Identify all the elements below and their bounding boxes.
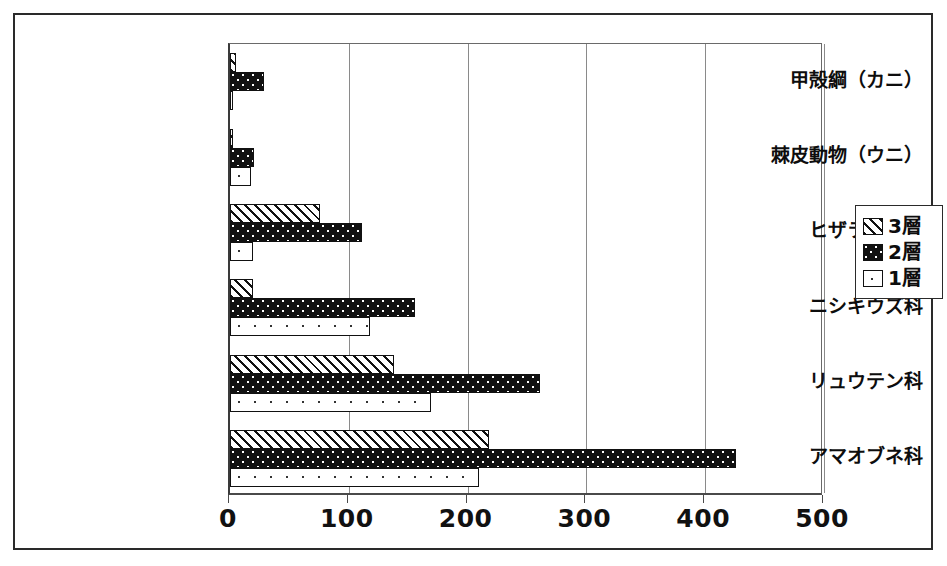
gridline <box>824 44 825 493</box>
x-axis-tick <box>822 495 823 503</box>
x-axis-tick-label: 500 <box>795 504 849 533</box>
bar-series-1 <box>230 317 370 336</box>
x-axis-tick-label: 0 <box>219 504 237 533</box>
legend-swatch-icon <box>863 218 883 235</box>
bar-series-3 <box>230 129 233 148</box>
legend-item: 1層 <box>863 265 936 291</box>
gridline <box>705 44 706 493</box>
bar-series-1 <box>230 167 251 186</box>
bar-series-1 <box>230 242 253 261</box>
gridline <box>468 44 469 493</box>
gridline <box>349 44 350 493</box>
x-axis-tick-label: 400 <box>676 504 730 533</box>
x-axis-tick <box>228 495 229 503</box>
legend-swatch-icon <box>863 244 883 261</box>
gridline <box>586 44 587 493</box>
bar-series-3 <box>230 53 236 72</box>
bar-series-3 <box>230 204 320 223</box>
x-axis-tick <box>584 495 585 503</box>
bar-series-3 <box>230 355 394 374</box>
x-axis-tick-label: 100 <box>320 504 374 533</box>
bar-series-3 <box>230 430 489 449</box>
bar-series-2 <box>230 72 264 91</box>
x-axis-tick-label: 200 <box>439 504 493 533</box>
figure-frame: 0100200300400500 甲殻綱（カニ）棘皮動物（ウニ）ヒザラガイ科ニシ… <box>13 13 933 550</box>
bar-series-1 <box>230 91 233 110</box>
x-axis-tick <box>466 495 467 503</box>
bar-series-2 <box>230 223 362 242</box>
legend-swatch-icon <box>863 270 883 287</box>
category-label: 棘皮動物（ウニ） <box>726 146 931 165</box>
category-label: アマオブネ科 <box>726 447 931 466</box>
plot-area <box>228 43 822 495</box>
legend-item: 2層 <box>863 239 936 265</box>
bar-series-2 <box>230 298 415 317</box>
x-axis-tick-label: 300 <box>558 504 612 533</box>
bar-series-1 <box>230 468 479 487</box>
bar-series-2 <box>230 148 254 167</box>
category-label: 甲殻綱（カニ） <box>726 71 931 90</box>
bar-series-3 <box>230 279 253 298</box>
x-axis-tick <box>347 495 348 503</box>
category-label: リュウテン科 <box>726 372 931 391</box>
bar-series-1 <box>230 393 431 412</box>
bar-series-2 <box>230 449 736 468</box>
legend-label: 1層 <box>888 268 922 288</box>
legend-label: 3層 <box>888 216 922 236</box>
bar-series-2 <box>230 374 540 393</box>
legend-item: 3層 <box>863 213 936 239</box>
category-label: ニシキウズ科 <box>726 297 931 316</box>
legend-label: 2層 <box>888 242 922 262</box>
legend: 3層2層1層 <box>855 205 943 299</box>
chart-screenshot: 0100200300400500 甲殻綱（カニ）棘皮動物（ウニ）ヒザラガイ科ニシ… <box>0 0 947 566</box>
x-axis-tick <box>703 495 704 503</box>
